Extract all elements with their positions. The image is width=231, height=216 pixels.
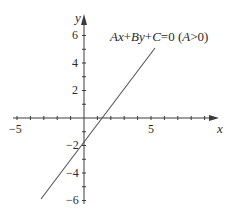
equation-line — [41, 48, 155, 199]
y-axis — [81, 14, 87, 204]
y-tick-label-neg4: −4 — [66, 166, 79, 180]
x-axis-label: x — [216, 121, 223, 136]
y-tick-label-neg2: −2 — [66, 138, 79, 152]
x-axis — [13, 115, 219, 121]
y-tick-label-6: 6 — [72, 28, 78, 42]
equation-label: Ax+By+C=0 (A>0) — [109, 29, 208, 44]
x-tick-label-neg5: −5 — [9, 122, 22, 136]
y-axis-arrow-icon — [81, 14, 87, 25]
y-tick-label-4: 4 — [72, 56, 78, 70]
y-axis-label: y — [73, 10, 81, 25]
y-tick-label-neg6: −6 — [66, 193, 79, 207]
coordinate-plane-figure: y x −5 5 6 4 2 −2 −4 −6 Ax+By+C=0 (A>0) — [0, 0, 231, 216]
x-tick-label-5: 5 — [148, 122, 154, 136]
y-tick-label-2: 2 — [72, 83, 78, 97]
